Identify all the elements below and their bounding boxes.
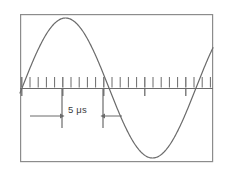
oscilloscope-screenshot: 5 μs	[0, 0, 226, 174]
waveform-plot	[0, 0, 226, 174]
measurement-label: 5 μs	[68, 104, 87, 116]
